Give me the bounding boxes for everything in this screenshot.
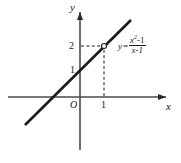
x-tick-label-1: 1 bbox=[101, 100, 106, 110]
origin-label: O bbox=[70, 100, 77, 110]
function-line bbox=[25, 20, 131, 125]
y-tick-label-1: 1 bbox=[70, 65, 75, 75]
y-tick-label-2: 2 bbox=[69, 41, 74, 51]
x-axis-label: x bbox=[166, 101, 171, 112]
numerator-tail: -1 bbox=[137, 35, 145, 45]
equation-fraction: x2-1 x-1 bbox=[129, 36, 146, 56]
removable-discontinuity-open-circle bbox=[102, 44, 107, 49]
y-axis-arrowhead bbox=[77, 12, 83, 20]
equation-equals-sign: = bbox=[122, 41, 129, 51]
equation-numerator: x2-1 bbox=[129, 36, 146, 45]
graph-canvas bbox=[0, 0, 181, 163]
function-equation-label: y = x2-1 x-1 bbox=[118, 36, 146, 56]
x-axis-arrowhead bbox=[158, 94, 166, 100]
y-axis-label: y bbox=[70, 2, 75, 13]
math-figure-coordinate-plane: y x O 2 1 1 y = x2-1 x-1 bbox=[0, 0, 181, 163]
equation-denominator: x-1 bbox=[131, 46, 145, 55]
